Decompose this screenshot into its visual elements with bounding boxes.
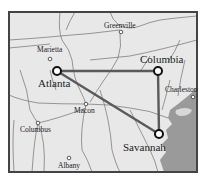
route-map: Atlanta Columbia Savannah Greenville Mar… — [0, 0, 206, 180]
charleston-marker[interactable] — [191, 95, 195, 99]
macon-label: Macon — [74, 106, 95, 115]
columbia-marker[interactable] — [154, 67, 162, 75]
marietta-label: Marietta — [37, 45, 63, 54]
columbus-label: Columbus — [20, 125, 51, 134]
marietta-marker[interactable] — [48, 57, 52, 61]
greenville-label: Greenville — [104, 21, 136, 30]
albany-marker[interactable] — [67, 156, 71, 160]
route-columbia-savannah — [158, 71, 159, 134]
charleston-label: Charleston — [165, 85, 198, 94]
atlanta-marker[interactable] — [53, 67, 61, 75]
albany-label: Albany — [58, 161, 80, 170]
savannah-marker[interactable] — [155, 130, 163, 138]
savannah-label: Savannah — [123, 141, 166, 153]
atlanta-label: Atlanta — [38, 77, 70, 89]
greenville-marker[interactable] — [119, 30, 123, 34]
columbia-label: Columbia — [140, 53, 184, 65]
